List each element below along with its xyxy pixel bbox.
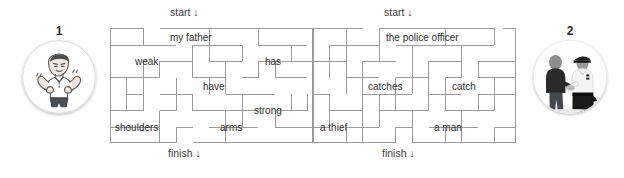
- maze-2-word-a-thief: a thief: [320, 122, 347, 133]
- maze-1-word-strong: strong: [254, 105, 282, 116]
- strong-man-flexing-illustration: [22, 40, 96, 114]
- maze-2-start-label: start ↓: [384, 6, 413, 18]
- maze-2-finish-label: finish ↓: [382, 147, 415, 159]
- maze-1-word-shoulders: shoulders: [115, 122, 158, 133]
- maze-1-word-has: has: [265, 56, 281, 67]
- maze-2: start ↓ finish ↓: [313, 28, 516, 143]
- maze-1-word-have: have: [203, 81, 225, 92]
- maze-1-word-my-father: my father: [170, 32, 212, 43]
- exercise-2-number: 2: [527, 24, 613, 38]
- maze-1-word-arms: arms: [220, 122, 242, 133]
- maze-2-word-a-man: a man: [434, 122, 462, 133]
- exercise-1-number: 1: [16, 24, 102, 38]
- maze-2-word-the-police-officer: the police officer: [386, 32, 459, 43]
- maze-2-word-catch: catch: [452, 81, 476, 92]
- maze-1: start ↓ finish ↓: [110, 28, 313, 143]
- maze-1-finish-label: finish ↓: [168, 147, 201, 159]
- maze-1-start-label: start ↓: [170, 6, 199, 18]
- police-officer-photo: [533, 40, 607, 114]
- exercise-1-avatar-block: 1: [16, 24, 102, 114]
- maze-1-word-weak: weak: [135, 56, 158, 67]
- exercise-2-avatar-block: 2: [527, 24, 613, 114]
- maze-2-word-catches: catches: [368, 81, 402, 92]
- worksheet-canvas: 1: [0, 0, 624, 178]
